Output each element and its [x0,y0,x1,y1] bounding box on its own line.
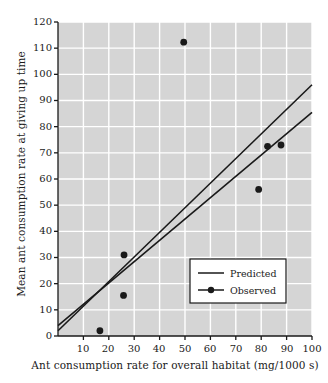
y-tick-label: 70 [26,148,52,158]
data-point[interactable] [97,327,104,334]
x-tick-label: 100 [297,344,327,354]
legend-label-observed: Observed [230,285,276,296]
figure-container: Mean ant consumption rate at giving up t… [0,0,328,383]
data-point[interactable] [278,142,285,149]
y-tick-label: 50 [26,200,52,210]
data-point[interactable] [180,39,187,46]
y-tick-label: 20 [26,279,52,289]
data-point[interactable] [120,292,127,299]
legend-box [190,259,286,303]
y-tick-label: 10 [26,305,52,315]
y-tick-label: 80 [26,122,52,132]
legend-swatch-observed-marker [208,287,214,293]
data-point[interactable] [255,186,262,193]
y-axis-tick-labels: 120 110 100 90 80 70 60 50 40 30 20 10 0 [22,0,52,383]
legend-label-predicted: Predicted [230,268,277,279]
y-tick-label: 120 [26,17,52,27]
y-tick-label: 0 [26,331,52,341]
y-tick-label: 30 [26,252,52,262]
data-point[interactable] [121,251,128,258]
y-tick-label: 60 [26,174,52,184]
data-point[interactable] [264,143,271,150]
y-tick-label: 90 [26,95,52,105]
y-tick-label: 40 [26,226,52,236]
x-axis-title: Ant consumption rate for overall habitat… [30,359,320,371]
y-tick-label: 100 [26,69,52,79]
y-tick-label: 110 [26,43,52,53]
x-axis-tick-labels: 10 20 30 40 50 60 70 80 90 100 [0,344,328,358]
